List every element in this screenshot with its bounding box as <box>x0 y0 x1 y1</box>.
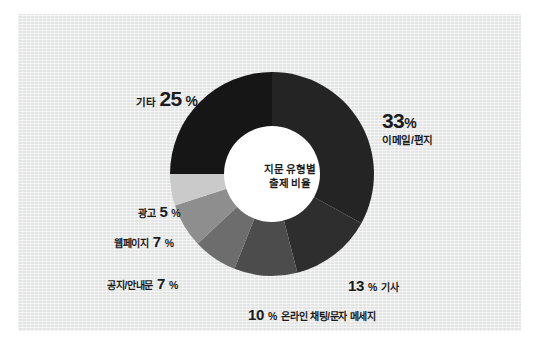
callout-article-value: 13 <box>348 278 364 293</box>
screenshot-root: 지문 유형별 출제 비율 33% 이메일/편지 기타25% 광고5% 웹페이지7… <box>0 0 544 353</box>
callout-webpage: 웹페이지7% <box>114 234 174 249</box>
callout-chat: 10%온라인 채팅/문자 메세지 <box>248 307 376 322</box>
callout-other-label: 기타 <box>136 97 155 108</box>
callout-chat-percent-sign: % <box>268 311 277 322</box>
callout-article-label: 기사 <box>381 283 398 293</box>
center-title-line1: 지문 유형별 <box>242 162 338 176</box>
callout-chat-value: 10 <box>248 307 264 322</box>
callout-webpage-label: 웹페이지 <box>114 239 149 249</box>
callout-ad-percent-sign: % <box>171 208 180 219</box>
callout-notice-percent-sign: % <box>169 280 178 291</box>
callout-email-value: 33 <box>382 109 404 132</box>
callout-article: 13%기사 <box>348 278 399 293</box>
callout-webpage-value: 7 <box>153 234 161 249</box>
callout-ad-value: 5 <box>159 204 167 219</box>
callout-other-value: 25 <box>159 88 181 109</box>
callout-email-value-row: 33% <box>382 110 433 131</box>
chart-center-title: 지문 유형별 출제 비율 <box>242 162 338 190</box>
center-title-line2: 출제 비율 <box>242 176 338 190</box>
callout-notice-value: 7 <box>157 276 165 291</box>
chart-card: 지문 유형별 출제 비율 33% 이메일/편지 기타25% 광고5% 웹페이지7… <box>18 14 521 331</box>
callout-webpage-percent-sign: % <box>165 238 174 249</box>
callout-notice-label: 공지/안내문 <box>107 281 153 291</box>
callout-chat-label: 온라인 채팅/문자 메세지 <box>281 312 375 322</box>
callout-article-percent-sign: % <box>368 282 377 293</box>
donut-chart: 지문 유형별 출제 비율 33% 이메일/편지 기타25% 광고5% 웹페이지7… <box>18 14 521 331</box>
callout-notice: 공지/안내문7% <box>107 276 178 291</box>
callout-other-percent-sign: % <box>186 94 198 108</box>
callout-email-label: 이메일/편지 <box>382 135 433 146</box>
callout-email-percent-sign: % <box>404 115 416 131</box>
callout-email: 33% 이메일/편지 <box>382 110 433 146</box>
callout-ad: 광고5% <box>138 204 181 219</box>
callout-other: 기타25% <box>136 88 198 109</box>
callout-ad-label: 광고 <box>138 209 155 219</box>
